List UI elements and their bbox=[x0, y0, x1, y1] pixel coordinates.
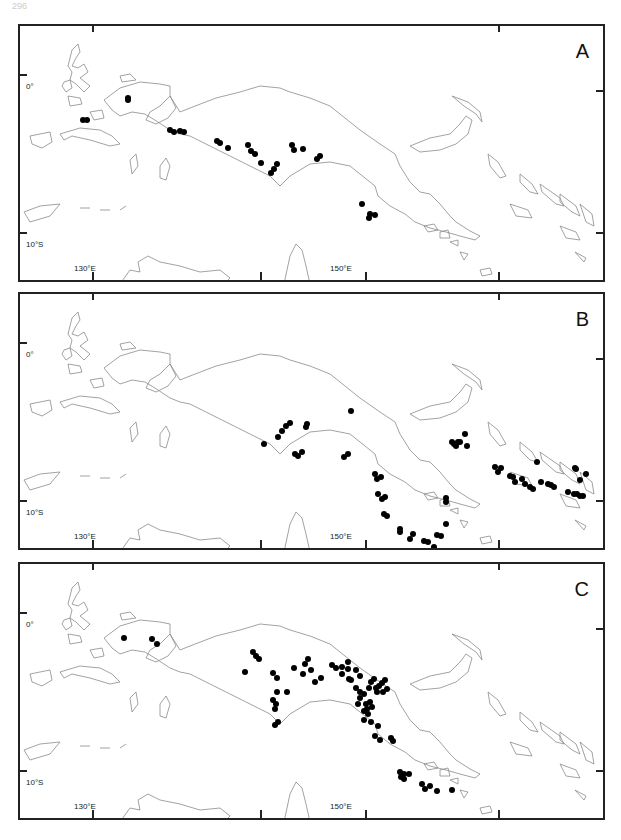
occurrence-point bbox=[318, 675, 324, 681]
occurrence-point bbox=[457, 439, 463, 445]
axis-tick bbox=[498, 564, 500, 570]
occurrence-point bbox=[368, 719, 374, 725]
occurrence-point bbox=[574, 491, 580, 497]
axis-tick bbox=[20, 770, 27, 772]
occurrence-point bbox=[577, 477, 583, 483]
axis-tick bbox=[498, 540, 500, 548]
panel-letter: B bbox=[576, 308, 589, 331]
occurrence-point bbox=[272, 722, 278, 728]
occurrence-point bbox=[498, 465, 504, 471]
occurrence-point bbox=[317, 153, 323, 159]
map-panel-a: A0°10°S130°E150°E bbox=[18, 24, 605, 282]
occurrence-point bbox=[519, 476, 525, 482]
occurrence-point bbox=[84, 117, 90, 123]
occurrence-point bbox=[302, 661, 308, 667]
occurrence-point bbox=[583, 471, 589, 477]
map-panel-c: C0°10°S130°E150°E bbox=[18, 562, 605, 820]
occurrence-point bbox=[425, 539, 431, 545]
occurrence-point bbox=[353, 667, 359, 673]
occurrence-point bbox=[261, 441, 267, 447]
occurrence-point bbox=[252, 151, 258, 157]
occurrence-point bbox=[333, 665, 339, 671]
axis-tick bbox=[92, 810, 94, 818]
occurrence-point bbox=[305, 656, 311, 662]
occurrence-point bbox=[375, 491, 381, 497]
lat-label-0: 0° bbox=[26, 350, 34, 359]
occurrence-point bbox=[300, 671, 306, 677]
occurrence-point bbox=[522, 481, 528, 487]
occurrence-point bbox=[258, 160, 264, 166]
occurrence-point bbox=[345, 451, 351, 457]
axis-tick bbox=[498, 810, 500, 818]
axis-tick bbox=[498, 272, 500, 280]
occurrence-point bbox=[256, 656, 262, 662]
axis-tick bbox=[498, 294, 500, 300]
occurrence-point bbox=[530, 486, 536, 492]
occurrence-point bbox=[312, 679, 318, 685]
occurrence-point bbox=[149, 636, 155, 642]
occurrence-point bbox=[366, 215, 372, 221]
occurrence-point bbox=[580, 493, 586, 499]
occurrence-point bbox=[355, 701, 361, 707]
occurrence-point bbox=[339, 671, 345, 677]
lon-label-150e: 150°E bbox=[330, 532, 352, 541]
axis-tick bbox=[20, 612, 27, 614]
occurrence-point bbox=[372, 733, 378, 739]
occurrence-point bbox=[492, 464, 498, 470]
occurrence-point bbox=[273, 701, 279, 707]
axis-tick bbox=[596, 358, 603, 360]
occurrence-point bbox=[125, 97, 131, 103]
occurrence-point bbox=[283, 423, 289, 429]
occurrence-point bbox=[369, 704, 375, 710]
occurrence-point bbox=[274, 689, 280, 695]
lon-label-150e: 150°E bbox=[330, 802, 352, 811]
panel-letter: A bbox=[576, 40, 589, 63]
occurrence-point bbox=[345, 659, 351, 665]
occurrence-point bbox=[443, 521, 449, 527]
occurrence-point bbox=[303, 424, 309, 430]
occurrence-point bbox=[171, 129, 177, 135]
occurrence-point bbox=[397, 529, 403, 535]
axis-tick bbox=[365, 810, 367, 818]
occurrence-point bbox=[464, 443, 470, 449]
occurrence-point bbox=[339, 664, 345, 670]
occurrence-point bbox=[274, 161, 280, 167]
occurrence-point bbox=[361, 717, 367, 723]
occurrence-point bbox=[410, 531, 416, 537]
occurrence-point bbox=[378, 474, 384, 480]
axis-tick bbox=[92, 294, 94, 300]
occurrence-point bbox=[121, 635, 127, 641]
panel-letter: C bbox=[575, 578, 589, 601]
map-panel-b: B0°10°S130°E150°E bbox=[18, 292, 605, 550]
occurrence-point bbox=[357, 695, 363, 701]
occurrence-point bbox=[308, 667, 314, 673]
occurrence-point bbox=[572, 465, 578, 471]
occurrence-point bbox=[299, 449, 305, 455]
occurrence-point bbox=[181, 129, 187, 135]
axis-tick bbox=[596, 770, 603, 772]
occurrence-point bbox=[359, 201, 365, 207]
axis-tick bbox=[260, 810, 262, 818]
occurrence-point bbox=[348, 408, 354, 414]
occurrence-point bbox=[434, 788, 440, 794]
axis-tick bbox=[498, 26, 500, 32]
occurrence-point bbox=[384, 686, 390, 692]
occurrence-point bbox=[565, 489, 571, 495]
occurrence-point bbox=[274, 675, 280, 681]
occurrence-point bbox=[422, 786, 428, 792]
occurrence-point bbox=[419, 781, 425, 787]
occurrence-point bbox=[345, 666, 351, 672]
occurrence-point bbox=[382, 494, 388, 500]
axis-tick bbox=[596, 90, 603, 92]
axis-tick bbox=[365, 540, 367, 548]
axis-tick bbox=[92, 26, 94, 32]
occurrence-point bbox=[390, 738, 396, 744]
lon-label-150e: 150°E bbox=[330, 264, 352, 273]
occurrence-point bbox=[375, 723, 381, 729]
axis-tick bbox=[92, 564, 94, 570]
axis-tick bbox=[260, 540, 262, 548]
axis-tick bbox=[20, 342, 27, 344]
occurrence-point bbox=[291, 147, 297, 153]
axis-tick bbox=[596, 628, 603, 630]
occurrence-point bbox=[366, 685, 372, 691]
